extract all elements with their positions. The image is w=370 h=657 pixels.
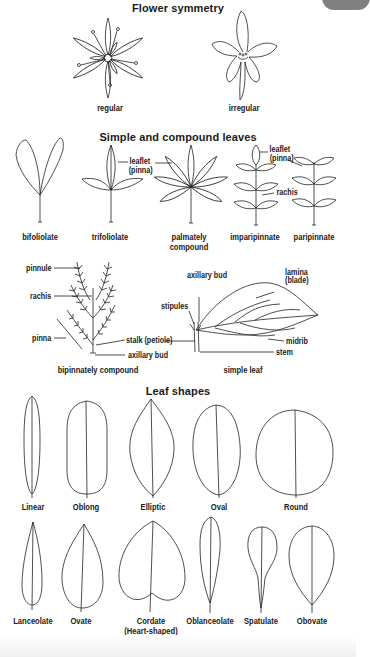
cordate-label: Cordate	[137, 616, 166, 626]
elliptic-label: Elliptic	[141, 502, 166, 512]
stipules-annotation: stipules	[161, 302, 188, 311]
bifoliolate-label: bifoliolate	[22, 232, 58, 242]
simple-compound-title: Simple and compound leaves	[0, 131, 356, 143]
midrib-annotation: midrib	[286, 337, 308, 346]
ovate-label: Ovate	[70, 616, 91, 626]
oval-label: Oval	[211, 502, 227, 512]
oblong-label: Oblong	[73, 502, 99, 512]
obovate-label: Obovate	[297, 616, 327, 626]
ovate-leaf-drawing	[62, 524, 103, 612]
stem-annotation: stem	[276, 348, 293, 357]
paripinnate-drawing	[292, 157, 336, 225]
round-label: Round	[284, 502, 308, 512]
stalk-petiole-annotation: stalk (petiole)	[126, 336, 172, 345]
obovate-leaf-drawing	[289, 526, 334, 613]
pinna-annotation-2: (pinna)	[270, 154, 294, 163]
leaflet-annotation-2: leaflet	[269, 145, 290, 154]
bifoliolate-drawing	[16, 138, 63, 222]
leaflet-annotation-1: leaflet	[129, 157, 150, 166]
oblong-leaf-drawing	[67, 401, 107, 498]
palmately-label: palmately	[172, 232, 207, 242]
axillary-bud-annotation-simple: axillary bud	[187, 271, 227, 280]
bottom-shade	[0, 635, 356, 657]
compound-label: compound	[170, 242, 209, 252]
spatulate-leaf-drawing	[248, 527, 277, 613]
regular-flower-drawing	[72, 18, 144, 98]
blade-annotation: (blade)	[285, 276, 309, 285]
irregular-label: irregular	[229, 103, 260, 113]
pinna-annotation-bipinnate: pinna	[32, 334, 51, 343]
lanceolate-label: Lanceolate	[13, 616, 53, 626]
oblanceolate-label: Oblanceolate	[186, 616, 234, 626]
pinnule-annotation: pinnule	[26, 264, 52, 273]
bipinnate-caption: bipinnately compound	[58, 365, 139, 375]
spatulate-label: Spatulate	[244, 616, 278, 626]
oblanceolate-leaf-drawing	[200, 517, 220, 613]
paripinnate-label: paripinnate	[294, 232, 335, 242]
palmately-compound-drawing	[154, 145, 229, 223]
linear-label: Linear	[22, 502, 45, 512]
axillary-bud-annotation-bipinnate: axillary bud	[128, 351, 168, 360]
oval-leaf-drawing	[193, 405, 240, 498]
rachis-annotation: rachis	[276, 188, 297, 197]
linear-leaf-drawing	[24, 396, 40, 498]
regular-label: regular	[97, 103, 123, 113]
round-leaf-drawing	[256, 410, 333, 498]
leaf-shapes-title: Leaf shapes	[0, 385, 356, 397]
imparipinnate-label: imparipinnate	[230, 232, 280, 242]
cordate-leaf-drawing	[119, 521, 185, 612]
simple-leaf-caption: simple leaf	[223, 365, 262, 375]
lanceolate-leaf-drawing	[22, 522, 42, 610]
irregular-flower-drawing	[212, 11, 277, 100]
pinna-annotation-1: (pinna)	[129, 166, 153, 175]
elliptic-leaf-drawing	[130, 399, 174, 498]
trifoliolate-label: trifoliolate	[92, 232, 129, 242]
rachis-annotation-bipinnate: rachis	[30, 292, 51, 301]
